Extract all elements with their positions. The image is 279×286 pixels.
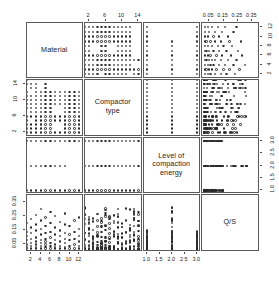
axis-tick bbox=[260, 177, 262, 178]
data-point bbox=[129, 165, 131, 167]
data-point bbox=[35, 91, 37, 93]
data-point bbox=[232, 107, 234, 109]
data-point bbox=[64, 223, 66, 225]
data-point bbox=[64, 95, 66, 97]
data-point bbox=[100, 165, 102, 167]
data-point bbox=[218, 64, 220, 66]
data-point bbox=[73, 119, 75, 121]
data-point bbox=[196, 123, 198, 125]
data-point bbox=[26, 83, 28, 85]
axis-tick-label: 0.25 bbox=[232, 12, 243, 18]
data-point bbox=[208, 50, 210, 52]
data-point bbox=[49, 231, 51, 233]
data-point bbox=[227, 115, 229, 117]
data-point bbox=[30, 218, 32, 220]
data-point bbox=[108, 73, 110, 75]
data-point bbox=[30, 247, 32, 249]
data-point bbox=[100, 31, 102, 33]
diagonal-panel-material: Material bbox=[26, 22, 84, 79]
data-point bbox=[104, 31, 106, 33]
data-point bbox=[125, 189, 127, 191]
data-point bbox=[78, 127, 80, 129]
data-point bbox=[88, 240, 90, 242]
data-point bbox=[73, 243, 75, 245]
data-point bbox=[146, 115, 148, 117]
data-point bbox=[234, 111, 236, 113]
data-point bbox=[207, 45, 209, 47]
scatter-panel-r0-c1 bbox=[84, 22, 142, 79]
data-point bbox=[171, 248, 173, 250]
data-point bbox=[211, 68, 213, 70]
data-point bbox=[78, 216, 80, 218]
axis-tick-label: 0.15 bbox=[217, 12, 228, 18]
data-point bbox=[129, 31, 131, 33]
data-point bbox=[96, 35, 98, 37]
data-point bbox=[129, 54, 131, 56]
data-point bbox=[26, 222, 28, 224]
data-point bbox=[113, 233, 115, 235]
data-point bbox=[68, 95, 70, 97]
data-point bbox=[146, 111, 148, 113]
data-point bbox=[49, 95, 51, 97]
data-point bbox=[117, 242, 119, 244]
data-point bbox=[171, 103, 173, 105]
data-point bbox=[208, 31, 210, 33]
data-point bbox=[30, 99, 32, 101]
data-point bbox=[35, 87, 37, 89]
data-point bbox=[84, 45, 86, 47]
data-point bbox=[108, 35, 110, 37]
data-point bbox=[239, 79, 241, 81]
data-point bbox=[117, 73, 119, 75]
data-point bbox=[215, 99, 217, 101]
data-point bbox=[171, 68, 173, 70]
data-point bbox=[196, 103, 198, 105]
data-point bbox=[26, 107, 28, 109]
data-point bbox=[92, 248, 94, 250]
data-point bbox=[30, 83, 32, 85]
data-point bbox=[117, 140, 119, 142]
data-point bbox=[59, 240, 61, 242]
data-point bbox=[64, 131, 66, 133]
data-point bbox=[121, 236, 123, 238]
data-point bbox=[220, 59, 222, 61]
data-point bbox=[129, 50, 131, 52]
data-point bbox=[228, 91, 230, 93]
data-point bbox=[219, 99, 221, 101]
data-point bbox=[133, 59, 135, 61]
data-point bbox=[121, 222, 123, 224]
data-point bbox=[117, 221, 119, 223]
scatter-panel-r0-c3 bbox=[201, 22, 259, 79]
axis-tick-label: 2.5 bbox=[180, 256, 188, 262]
data-point bbox=[44, 131, 46, 133]
data-point bbox=[44, 87, 46, 89]
data-point bbox=[35, 115, 37, 117]
data-point bbox=[104, 240, 106, 242]
axis-tick-label: 2.0 bbox=[268, 161, 274, 169]
data-point bbox=[84, 50, 86, 52]
data-point bbox=[171, 50, 173, 52]
data-point bbox=[30, 131, 32, 133]
data-point bbox=[78, 131, 80, 133]
data-point bbox=[113, 31, 115, 33]
data-point bbox=[137, 213, 139, 215]
data-point bbox=[88, 45, 90, 47]
data-point bbox=[146, 248, 148, 250]
data-point bbox=[84, 31, 86, 33]
data-point bbox=[113, 189, 115, 191]
data-point bbox=[196, 119, 198, 121]
data-point bbox=[196, 40, 198, 42]
data-point bbox=[73, 95, 75, 97]
data-point bbox=[59, 140, 61, 142]
data-point bbox=[241, 83, 243, 85]
axis-tick-label: 14 bbox=[12, 80, 18, 86]
axis-tick-label: 10 bbox=[118, 12, 124, 18]
data-point bbox=[44, 119, 46, 121]
data-point bbox=[113, 64, 115, 66]
data-point bbox=[207, 119, 209, 121]
data-point bbox=[206, 87, 208, 89]
data-point bbox=[26, 243, 28, 245]
data-point bbox=[196, 26, 198, 28]
axis-tick-label: 0.25 bbox=[11, 210, 17, 221]
data-point bbox=[35, 127, 37, 129]
data-point bbox=[125, 68, 127, 70]
